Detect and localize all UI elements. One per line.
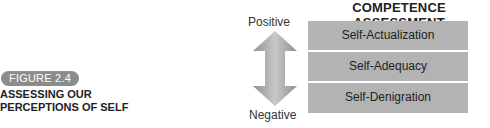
figure-caption: ASSESSING OUR PERCEPTIONS OF SELF [0,88,170,114]
competence-levels: Self-Actualization Self-Adequacy Self-De… [308,21,468,113]
axis-label-positive: Positive [248,15,290,29]
level-self-actualization: Self-Actualization [308,21,468,50]
caption-line-2: PERCEPTIONS OF SELF [0,101,170,114]
double-arrow-icon [253,31,297,106]
caption-line-1: ASSESSING OUR [0,88,170,101]
figure-number-badge: FIGURE 2.4 [1,71,79,86]
level-self-adequacy: Self-Adequacy [308,52,468,81]
axis-label-negative: Negative [249,108,296,122]
level-self-denigration: Self-Denigration [308,83,468,113]
